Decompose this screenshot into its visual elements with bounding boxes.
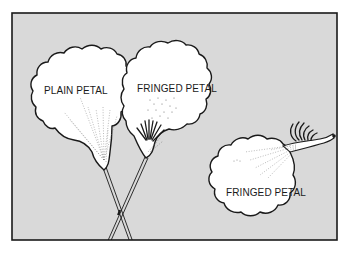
label-fringed-petal-lying: FRINGED PETAL (226, 187, 306, 198)
label-fringed-petal-upright: FRINGED PETAL (137, 83, 217, 94)
petal-diagram: PLAIN PETAL (0, 0, 350, 256)
label-plain-petal: PLAIN PETAL (44, 85, 108, 96)
